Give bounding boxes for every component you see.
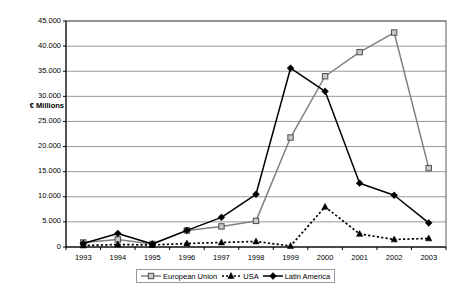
legend-marker-diamond-filled (262, 271, 284, 281)
data-point-marker (287, 243, 293, 249)
legend-item-label: Latin America (285, 272, 330, 281)
plot-frame (66, 21, 446, 247)
data-point-marker (322, 74, 327, 79)
legend-item-european-union[interactable]: European Union (140, 271, 218, 281)
y-axis (63, 21, 66, 247)
data-point-marker (391, 30, 396, 35)
data-point-marker (219, 224, 224, 229)
series-line (83, 33, 428, 244)
data-point-marker (269, 273, 276, 280)
data-point-marker (288, 135, 293, 140)
legend-item-label: USA (243, 272, 258, 281)
data-point-marker (356, 180, 363, 187)
gridlines (66, 21, 446, 247)
data-point-marker (228, 273, 234, 279)
data-point-marker (253, 218, 258, 223)
data-point-marker (357, 49, 362, 54)
data-point-marker (218, 239, 224, 245)
legend-marker-square-open (140, 271, 162, 281)
chart-legend: European UnionUSALatin America (136, 269, 335, 283)
legend-item-usa[interactable]: USA (220, 271, 259, 281)
data-point-marker (114, 230, 121, 237)
data-point-marker (322, 203, 328, 209)
data-point-marker (253, 238, 259, 244)
legend-item-latin-america[interactable]: Latin America (262, 271, 331, 281)
series-european-union (81, 30, 432, 247)
series-line (83, 68, 428, 244)
line-chart: € Millions 05.00010.00015.00020.00025.00… (0, 0, 458, 291)
legend-item-label: European Union (163, 272, 217, 281)
data-point-marker (148, 273, 153, 278)
legend-marker-triangle-filled (220, 271, 242, 281)
plot-area (0, 0, 458, 291)
data-point-marker (426, 165, 431, 170)
x-axis (66, 247, 446, 250)
